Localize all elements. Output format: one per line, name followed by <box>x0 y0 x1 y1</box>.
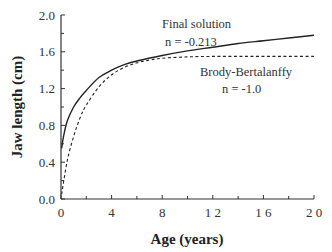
x-axis-title: Age (years) <box>151 231 224 248</box>
final-solution-label: Final solution <box>162 17 232 31</box>
final-solution-n-label: n = -0.213 <box>165 35 217 49</box>
y-tick-label: 0.4 <box>39 155 56 170</box>
y-tick-label: 2.0 <box>39 8 55 23</box>
y-tick-label: 1.2 <box>39 81 55 96</box>
x-tick-label: 4 <box>108 205 115 220</box>
y-axis-title: Jaw length (cm) <box>9 56 26 158</box>
brody-bertalanffy-n-label: n = -1.0 <box>222 82 261 96</box>
final-solution-curve <box>62 35 314 148</box>
x-tick-label: 1 6 <box>255 205 272 220</box>
y-tick-label: 0.0 <box>39 192 55 207</box>
x-tick-label: 0 <box>58 205 65 220</box>
brody-bertalanffy-label: Brody-Bertalanffy <box>200 65 293 79</box>
growth-chart: 0.00.40.81.21.62.0 0481 21 62 0 Final so… <box>0 0 332 252</box>
x-axis: 0481 21 62 0 <box>58 195 322 220</box>
x-tick-label: 1 2 <box>205 205 221 220</box>
series-lines <box>62 35 314 194</box>
x-tick-label: 8 <box>159 205 166 220</box>
y-tick-label: 1.6 <box>39 44 56 59</box>
x-tick-label: 2 0 <box>306 205 322 220</box>
y-tick-label: 0.8 <box>39 118 55 133</box>
y-axis: 0.00.40.81.21.62.0 <box>39 8 65 207</box>
